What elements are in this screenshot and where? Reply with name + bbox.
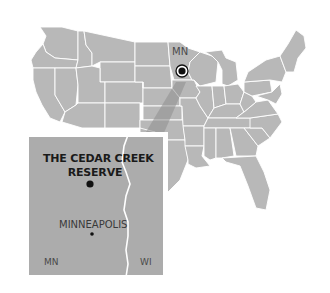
- state-new-england: [280, 30, 306, 72]
- reserve-label: THE CEDAR CREEK RESERVE: [43, 152, 147, 180]
- us-map: [0, 0, 330, 293]
- map-figure: MN THE CEDAR CREEK RESERVE MINNEAPOLIS M…: [0, 0, 330, 293]
- locator-state-label: MN: [172, 47, 188, 57]
- state-fl: [222, 156, 270, 210]
- target-marker-icon: [176, 65, 188, 77]
- state-ny: [244, 56, 286, 82]
- state-ms: [204, 128, 216, 160]
- reserve-label-line1: THE CEDAR CREEK: [43, 152, 147, 166]
- city-label: MINNEAPOLIS: [59, 220, 127, 230]
- state-mt: [84, 31, 135, 66]
- state-tn: [204, 118, 256, 128]
- state-nm: [105, 103, 140, 128]
- inset-state-label-left: MN: [44, 258, 59, 267]
- inset-state-label-right: WI: [140, 258, 152, 267]
- state-wy: [100, 62, 135, 82]
- state-ar: [183, 126, 204, 146]
- state-co: [105, 82, 143, 103]
- reserve-label-line2: RESERVE: [43, 166, 147, 180]
- reserve-point-icon: [86, 180, 93, 187]
- city-point-icon: [90, 232, 94, 236]
- state-nd: [135, 42, 170, 66]
